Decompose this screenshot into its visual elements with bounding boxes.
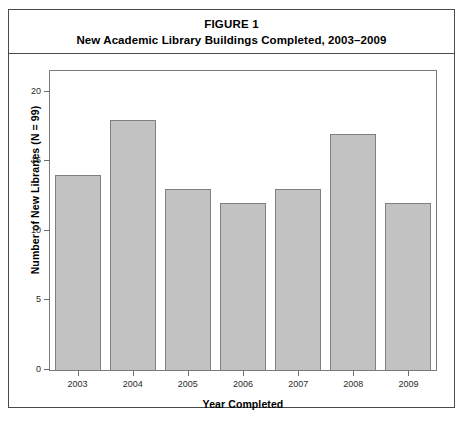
y-axis-tick-label: 10 (31, 224, 41, 236)
x-axis-title: Year Completed (49, 398, 437, 410)
x-axis-tick-mark (188, 371, 189, 376)
bar-2005[interactable] (165, 189, 211, 370)
bar-2004[interactable] (110, 120, 156, 370)
x-axis-tick-mark (408, 371, 409, 376)
y-axis-tick-label: 20 (31, 85, 41, 97)
figure-title: New Academic Library Buildings Completed… (76, 32, 386, 48)
bar-2006[interactable] (220, 203, 266, 370)
x-axis-tick-mark (243, 371, 244, 376)
y-axis-tick-mark (44, 160, 50, 161)
y-axis-tick-mark (44, 91, 50, 92)
figure-container: FIGURE 1 New Academic Library Buildings … (8, 9, 455, 408)
plot-frame: 05101520 (49, 70, 437, 371)
bar-2007[interactable] (275, 189, 321, 370)
x-axis-tick-label: 2008 (330, 378, 376, 390)
chart-area: Number of New Libraries (N = 99) 0510152… (9, 54, 454, 407)
x-axis-tick-mark (78, 371, 79, 376)
x-axis-tick-mark (298, 371, 299, 376)
x-axis-tick-label: 2003 (55, 378, 101, 390)
figure-root: FIGURE 1 New Academic Library Buildings … (0, 0, 467, 422)
plot-inner: 05101520 (50, 71, 436, 370)
x-axis-tick-label: 2006 (220, 378, 266, 390)
bar-2009[interactable] (385, 203, 431, 370)
y-axis-title: Number of New Libraries (N = 99) (29, 90, 41, 290)
y-axis-tick-label: 15 (31, 154, 41, 166)
x-axis-tick-label: 2009 (385, 378, 431, 390)
y-axis-tick-mark (44, 230, 50, 231)
x-axis-tick-label: 2004 (110, 378, 156, 390)
x-axis-tick-label: 2005 (165, 378, 211, 390)
x-axis-tick-label: 2007 (275, 378, 321, 390)
bars-layer (50, 71, 436, 370)
y-axis-tick-mark (44, 369, 50, 370)
y-axis-tick-label: 0 (36, 363, 41, 375)
y-axis-tick-label: 5 (36, 293, 41, 305)
x-axis-tick-mark (133, 371, 134, 376)
y-axis-tick-mark (44, 299, 50, 300)
figure-number-label: FIGURE 1 (204, 17, 259, 32)
x-axis-tick-mark (353, 371, 354, 376)
x-axis-labels: 2003200420052006200720082009 (49, 371, 437, 397)
bar-2003[interactable] (55, 175, 101, 370)
figure-caption: FIGURE 1 New Academic Library Buildings … (9, 10, 454, 54)
bar-2008[interactable] (330, 134, 376, 370)
